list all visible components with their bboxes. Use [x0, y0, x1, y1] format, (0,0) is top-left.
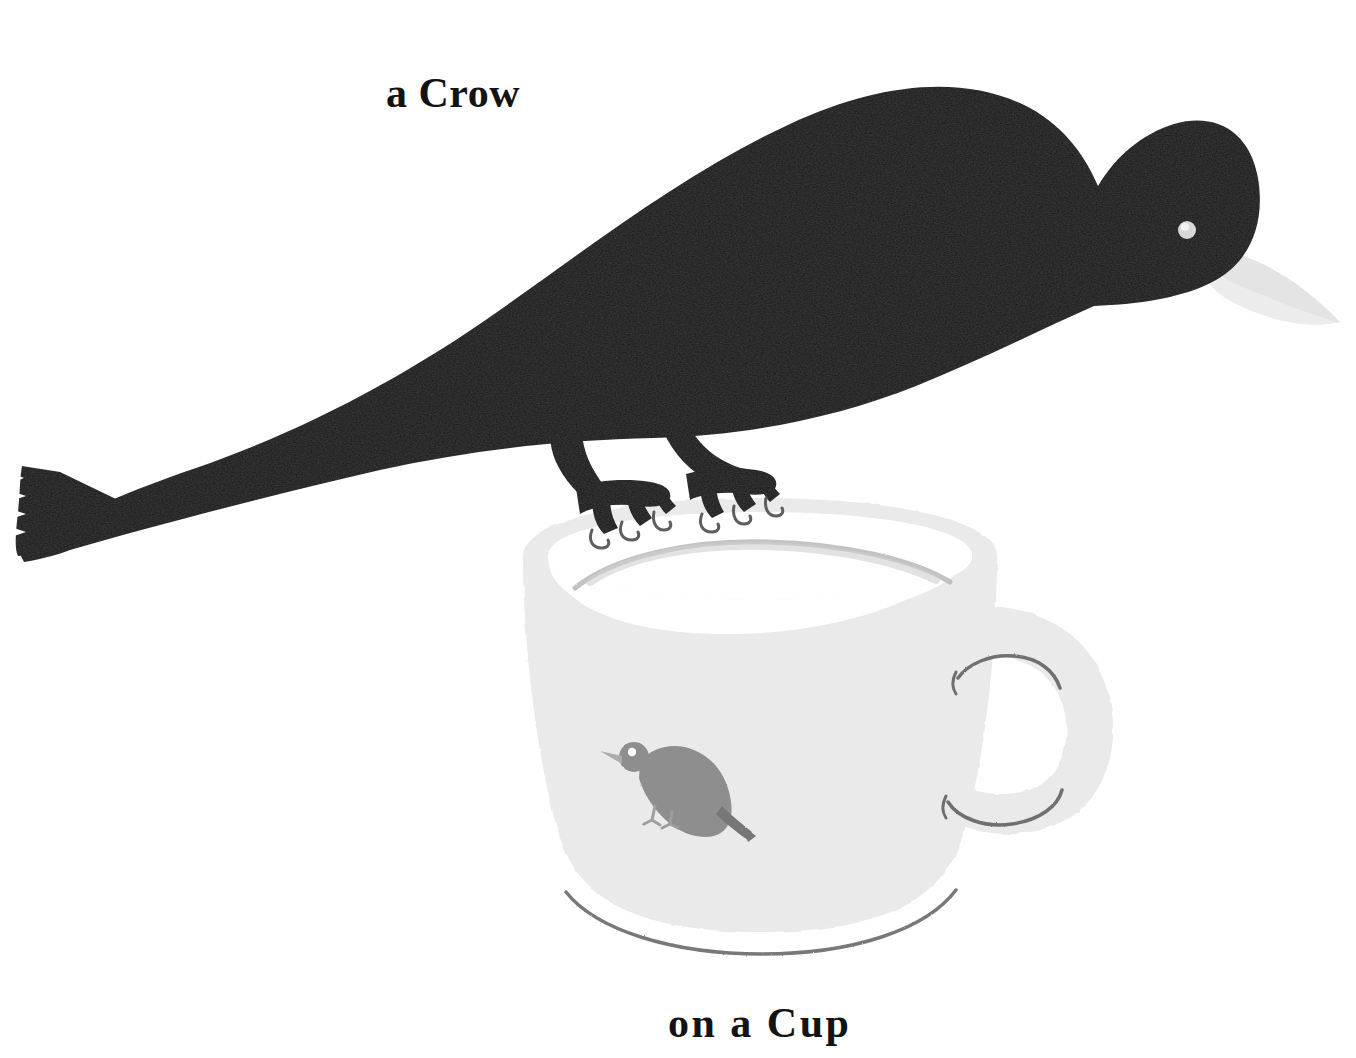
- caption-a-crow: a Crow: [386, 72, 520, 114]
- caption-on-a-cup: on a Cup: [668, 1002, 851, 1044]
- cup-group: [523, 498, 1113, 954]
- crow-group: [14, 87, 1340, 562]
- illustration-page: a Crow on a Cup: [0, 0, 1356, 1058]
- crow-on-cup-illustration: [0, 0, 1356, 1058]
- crow-eye-highlight: [1181, 223, 1189, 231]
- small-bird-eye: [628, 748, 636, 756]
